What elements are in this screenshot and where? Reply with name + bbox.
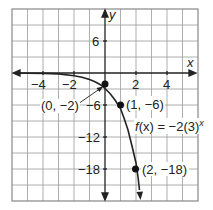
point-label-0: (0, −2) [41, 98, 79, 113]
chart: y x −4 −2 2 4 6 −6 −12 −18 (0, −2) (1, −… [0, 0, 213, 210]
x-tick-label: 2 [132, 77, 139, 92]
point-label-1: (1, −6) [126, 97, 164, 112]
point-1-neg6 [117, 102, 124, 109]
point-0-neg2 [102, 81, 109, 88]
point-2-neg18 [132, 166, 139, 173]
x-tick-label: −4 [31, 77, 46, 92]
x-axis-label: x [186, 55, 194, 70]
y-tick-label: −18 [78, 162, 100, 177]
x-tick-label: −2 [62, 77, 77, 92]
curve-arrow [137, 192, 144, 201]
point-label-2: (2, −18) [142, 162, 187, 177]
y-tick-label: −6 [86, 98, 101, 113]
y-tick-label: −12 [78, 130, 100, 145]
x-tick-label: 4 [163, 77, 170, 92]
y-tick-label: 6 [92, 34, 99, 49]
function-label: f(x) = −2(3)x [135, 118, 204, 134]
